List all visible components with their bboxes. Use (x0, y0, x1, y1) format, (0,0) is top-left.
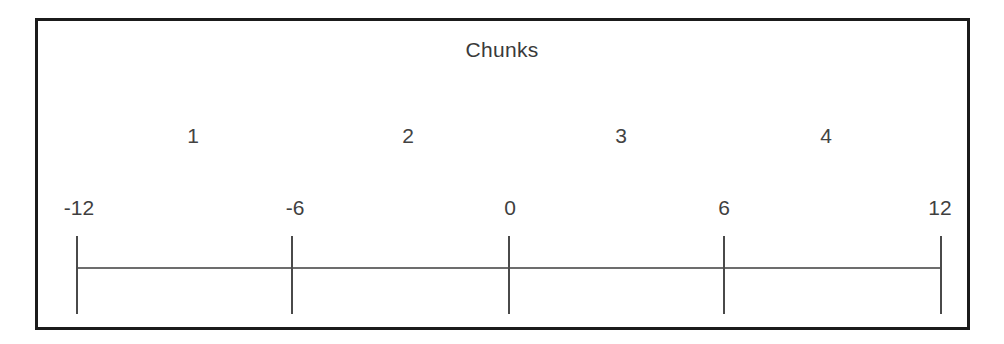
figure-frame-border (35, 18, 970, 330)
chunks-number-line-figure: Chunks 1 2 3 4 -12 -6 0 6 12 (0, 0, 1004, 344)
